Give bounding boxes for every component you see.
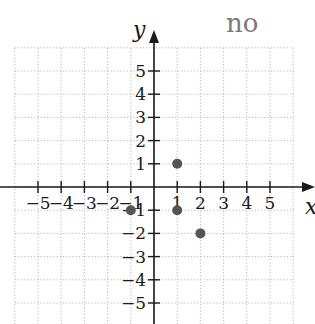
axes: xy: [0, 17, 315, 324]
y-tick-label: 1: [135, 154, 146, 174]
data-point: [195, 228, 205, 238]
coordinate-plane: xy −5−4−3−2−11234554321−1−2−3−4−5: [0, 0, 315, 324]
x-axis-label: x: [305, 194, 315, 219]
y-axis-label: y: [132, 17, 146, 42]
y-tick-label: −2: [121, 223, 146, 243]
y-tick-label: 2: [135, 131, 146, 151]
y-axis-arrow-icon: [149, 30, 159, 43]
x-tick-label: −4: [49, 193, 74, 213]
x-tick-label: 5: [265, 193, 276, 213]
x-axis-arrow-icon: [302, 182, 315, 192]
y-tick-label: 4: [135, 84, 146, 104]
y-tick-label: −4: [121, 270, 146, 290]
x-tick-label: −2: [95, 193, 120, 213]
data-point: [172, 205, 182, 215]
data-point: [126, 205, 136, 215]
x-tick-label: 2: [195, 193, 206, 213]
x-tick-label: 3: [218, 193, 229, 213]
y-tick-label: −3: [121, 247, 146, 267]
x-tick-label: 4: [241, 193, 252, 213]
y-tick-label: −5: [121, 293, 146, 313]
y-tick-label: 3: [135, 107, 146, 127]
answer-label: no: [226, 8, 258, 38]
x-tick-label: −5: [25, 193, 50, 213]
y-tick-label: 5: [135, 61, 146, 81]
x-tick-label: −3: [72, 193, 97, 213]
data-point: [172, 159, 182, 169]
